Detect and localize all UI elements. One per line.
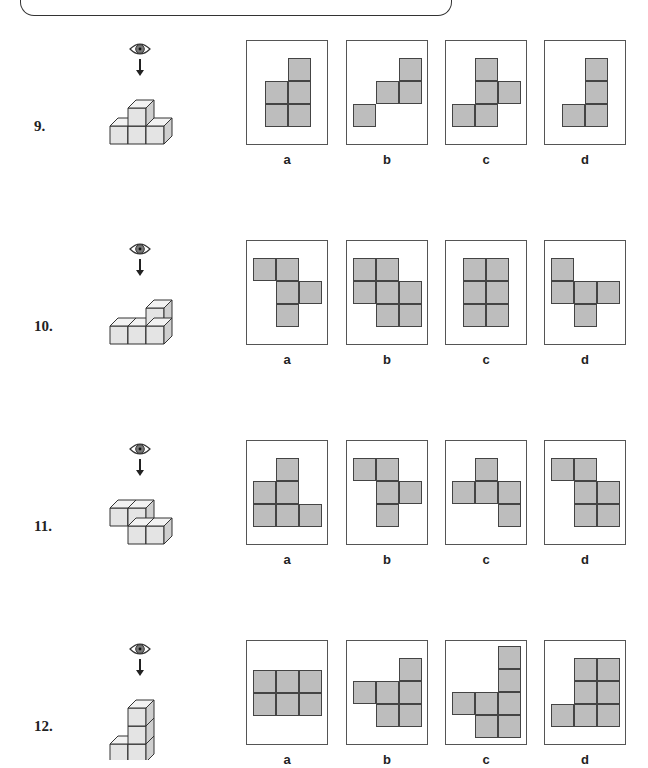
grid-cell: [399, 481, 422, 504]
answer-option-c[interactable]: [445, 40, 527, 145]
grid-cell: [399, 58, 422, 81]
grid-cell: [288, 81, 311, 104]
grid-cell: [498, 669, 521, 692]
grid-cell: [353, 258, 376, 281]
answer-option-d[interactable]: [544, 40, 626, 145]
grid-cell: [597, 704, 620, 727]
grid-cell: [399, 681, 422, 704]
grid-cell: [498, 715, 521, 738]
answer-option-c[interactable]: [445, 640, 527, 745]
answer-option-b[interactable]: [346, 640, 428, 745]
option-label: b: [346, 152, 428, 167]
answer-option-b[interactable]: [346, 240, 428, 345]
answer-option-a[interactable]: [246, 40, 328, 145]
grid-cell: [376, 504, 399, 527]
grid-cell: [463, 258, 486, 281]
question-number: 11.: [34, 518, 52, 535]
arrowhead-icon: [136, 670, 144, 676]
grid-cell: [551, 281, 574, 304]
option-label: c: [445, 552, 527, 567]
question-row: 9. abcd: [0, 40, 648, 240]
question-number: 10.: [34, 318, 53, 335]
grid-cell: [376, 258, 399, 281]
arrowhead-icon: [136, 270, 144, 276]
option-label: a: [246, 552, 328, 567]
grid-cell: [551, 458, 574, 481]
grid-cell: [498, 504, 521, 527]
grid-cell: [376, 681, 399, 704]
grid-cell: [376, 304, 399, 327]
cube-structure-figure: [106, 280, 186, 364]
grid-cell: [376, 81, 399, 104]
grid-cell: [353, 681, 376, 704]
grid-cell: [399, 81, 422, 104]
grid-cell: [265, 81, 288, 104]
grid-cell: [353, 104, 376, 127]
option-label: a: [246, 152, 328, 167]
grid-cell: [399, 704, 422, 727]
grid-cell: [574, 504, 597, 527]
grid-cell: [574, 481, 597, 504]
answer-option-b[interactable]: [346, 440, 428, 545]
answer-option-c[interactable]: [445, 440, 527, 545]
grid-cell: [399, 304, 422, 327]
arrowhead-icon: [136, 470, 144, 476]
grid-cell: [276, 258, 299, 281]
question-row: 11. abcd: [0, 440, 648, 640]
answer-option-d[interactable]: [544, 640, 626, 745]
grid-cell: [376, 704, 399, 727]
grid-cell: [276, 693, 299, 716]
instruction-banner-frame: [20, 0, 452, 16]
grid-cell: [574, 704, 597, 727]
option-label: a: [246, 752, 328, 767]
grid-cell: [486, 304, 509, 327]
grid-cell: [253, 693, 276, 716]
answer-option-c[interactable]: [445, 240, 527, 345]
question-row: 12. abcd: [0, 640, 648, 768]
eye-icon: [129, 642, 151, 656]
grid-cell: [399, 658, 422, 681]
grid-cell: [475, 58, 498, 81]
question-number: 12.: [34, 718, 53, 735]
answer-option-a[interactable]: [246, 440, 328, 545]
grid-cell: [353, 281, 376, 304]
grid-cell: [574, 681, 597, 704]
grid-cell: [498, 692, 521, 715]
grid-cell: [276, 481, 299, 504]
grid-cell: [253, 504, 276, 527]
grid-cell: [376, 458, 399, 481]
answer-option-b[interactable]: [346, 40, 428, 145]
grid-cell: [463, 304, 486, 327]
grid-cell: [475, 458, 498, 481]
option-label: a: [246, 352, 328, 367]
answer-option-a[interactable]: [246, 240, 328, 345]
answer-option-d[interactable]: [544, 240, 626, 345]
answer-option-d[interactable]: [544, 440, 626, 545]
grid-cell: [574, 658, 597, 681]
grid-cell: [299, 693, 322, 716]
arrowhead-icon: [136, 70, 144, 76]
grid-cell: [597, 681, 620, 704]
grid-cell: [299, 281, 322, 304]
grid-cell: [276, 670, 299, 693]
grid-cell: [551, 258, 574, 281]
grid-cell: [452, 104, 475, 127]
grid-cell: [574, 281, 597, 304]
grid-cell: [276, 304, 299, 327]
option-label: d: [544, 552, 626, 567]
answer-option-a[interactable]: [246, 640, 328, 745]
grid-cell: [475, 715, 498, 738]
grid-cell: [276, 504, 299, 527]
grid-cell: [288, 104, 311, 127]
grid-cell: [376, 481, 399, 504]
grid-cell: [276, 281, 299, 304]
grid-cell: [452, 481, 475, 504]
grid-cell: [585, 104, 608, 127]
grid-cell: [276, 458, 299, 481]
eye-icon: [129, 242, 151, 256]
option-label: b: [346, 752, 428, 767]
grid-cell: [574, 458, 597, 481]
grid-cell: [498, 481, 521, 504]
grid-cell: [288, 58, 311, 81]
question-row: 10. abcd: [0, 240, 648, 440]
